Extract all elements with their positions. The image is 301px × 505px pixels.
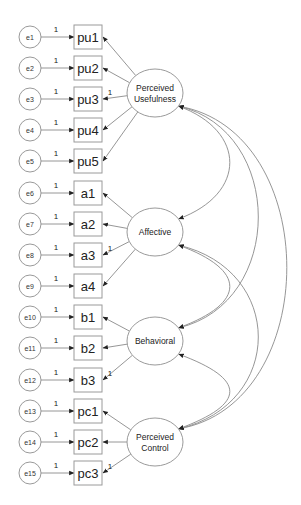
error-label: e4 — [26, 127, 34, 134]
latent-label: Affective — [139, 227, 172, 237]
error-weight: 1 — [54, 399, 59, 408]
error-label: e2 — [26, 65, 34, 72]
covariance-AF-BE — [179, 245, 230, 328]
sem-path-diagram: 1111 e11pu1e21pu2e31pu3e41pu4e51pu5e61a1… — [0, 0, 301, 505]
latent-label: Usefulness — [134, 94, 176, 104]
loading-weight: 1 — [108, 462, 113, 471]
indicator-label: a3 — [81, 248, 95, 263]
covariance-BE-PC — [179, 354, 230, 429]
loading-path — [103, 317, 129, 331]
error-label: e1 — [26, 34, 34, 41]
loading-path — [103, 96, 127, 99]
error-weight: 1 — [54, 461, 59, 470]
indicator-label: b2 — [81, 341, 95, 356]
indicator-label: a4 — [81, 279, 95, 294]
error-label: e8 — [26, 252, 34, 259]
indicator-label: a2 — [81, 217, 95, 232]
indicator-label: a1 — [81, 186, 95, 201]
error-label: e13 — [24, 408, 36, 415]
error-terms: e11pu1e21pu2e31pu3e41pu4e51pu5e61a1e71a2… — [19, 25, 102, 485]
loading-path — [103, 344, 127, 348]
error-weight: 1 — [54, 25, 59, 34]
loading-path — [103, 193, 132, 218]
covariance-PU-BE — [179, 106, 258, 328]
loading-weight: 1 — [108, 88, 113, 97]
latent-label: Behavioral — [135, 336, 175, 346]
indicator-label: pu4 — [77, 123, 99, 138]
indicator-label: b1 — [81, 310, 95, 325]
indicator-label: pu1 — [77, 30, 99, 45]
error-weight: 1 — [54, 118, 59, 127]
loading-path — [103, 112, 138, 161]
loading-weight: 1 — [108, 369, 113, 378]
error-weight: 1 — [54, 305, 59, 314]
error-weight: 1 — [54, 181, 59, 190]
error-label: e6 — [26, 190, 34, 197]
error-label: e5 — [26, 158, 34, 165]
error-weight: 1 — [54, 56, 59, 65]
latent-label: Perceived — [136, 432, 174, 442]
latent-variables: PerceivedUsefulnessAffectiveBehavioralPe… — [127, 69, 183, 466]
error-weight: 1 — [54, 336, 59, 345]
loading-weight: 1 — [108, 244, 113, 253]
error-weight: 1 — [54, 149, 59, 158]
error-label: e15 — [24, 470, 36, 477]
error-label: e11 — [24, 345, 35, 352]
error-label: e9 — [26, 283, 34, 290]
error-weight: 1 — [54, 274, 59, 283]
indicator-label: pu2 — [77, 61, 99, 76]
loading-path — [103, 249, 135, 286]
indicator-label: pu5 — [77, 154, 99, 169]
error-label: e14 — [24, 439, 36, 446]
error-label: e3 — [26, 96, 34, 103]
loading-path — [103, 37, 136, 76]
covariance-arcs — [179, 106, 287, 429]
error-weight: 1 — [54, 368, 59, 377]
error-weight: 1 — [54, 87, 59, 96]
error-weight: 1 — [54, 212, 59, 221]
error-weight: 1 — [54, 430, 59, 439]
indicator-label: pc2 — [78, 435, 99, 450]
indicator-label: pu3 — [77, 92, 99, 107]
loading-path — [103, 224, 127, 228]
error-label: e12 — [24, 377, 36, 384]
covariance-PU-PC — [179, 106, 287, 429]
indicator-label: b3 — [81, 373, 95, 388]
loading-path — [103, 411, 131, 430]
error-weight: 1 — [54, 243, 59, 252]
error-label: e10 — [24, 314, 36, 321]
loading-path — [103, 68, 130, 83]
latent-label: Control — [141, 443, 169, 453]
latent-label: Perceived — [136, 83, 174, 93]
indicator-label: pc1 — [78, 404, 99, 419]
error-label: e7 — [26, 221, 34, 228]
indicator-label: pc3 — [78, 466, 99, 481]
